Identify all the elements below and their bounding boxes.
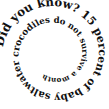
spiral-text-graphic: Didyouknow?15percentofbabysaltwatercroco…	[0, 0, 109, 109]
